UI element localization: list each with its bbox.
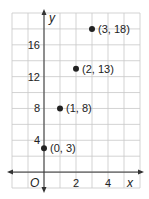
x-axis-label: x: [126, 176, 134, 190]
x-axis-arrow-right-icon: [138, 170, 144, 175]
data-point-label: (1, 8): [66, 102, 92, 114]
y-axis-arrow-up-icon: [42, 9, 47, 15]
y-tick-label: 8: [34, 102, 40, 114]
x-axis-arrow-left-icon: [7, 170, 13, 175]
y-axis-arrow-down-icon: [42, 187, 47, 193]
data-point: [89, 26, 95, 32]
origin-label: O: [30, 176, 39, 190]
data-point-label: (3, 18): [98, 23, 130, 35]
x-tick-label: 4: [105, 177, 111, 189]
y-axis-label: y: [48, 11, 56, 25]
data-point-label: (2, 13): [82, 63, 114, 75]
y-tick-label: 12: [28, 71, 40, 83]
data-point: [73, 66, 79, 72]
y-tick-label: 16: [28, 39, 40, 51]
axes: [7, 9, 144, 193]
data-point: [41, 145, 47, 151]
data-point-label: (0, 3): [50, 142, 76, 154]
coordinate-plane: yxO24481216 (0, 3)(1, 8)(2, 13)(3, 18): [0, 0, 149, 199]
data-point: [57, 105, 63, 111]
x-tick-label: 2: [73, 177, 79, 189]
data-points: (0, 3)(1, 8)(2, 13)(3, 18): [41, 23, 130, 154]
y-tick-label: 4: [34, 134, 40, 146]
